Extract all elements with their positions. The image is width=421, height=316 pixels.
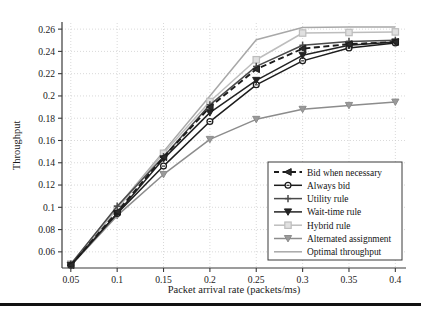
legend-label: Always bid: [307, 181, 350, 191]
y-tick-label: 0.24: [38, 46, 55, 57]
y-tick-label: 0.16: [38, 135, 55, 146]
y-tick-label: 0.26: [38, 24, 55, 35]
marker-square: [299, 30, 305, 36]
marker-square: [392, 29, 398, 35]
y-axis-title: Throughput: [11, 121, 22, 171]
legend-label: Wait-time rule: [307, 207, 361, 217]
y-tick-label: 0.22: [38, 68, 55, 79]
legend-label: Alternated assignment: [307, 234, 391, 244]
legend-label: Bid when necessary: [307, 168, 382, 178]
x-tick-label: 0.05: [62, 274, 79, 285]
x-tick-label: 0.35: [341, 274, 358, 285]
y-tick-label: 0.1: [43, 202, 55, 213]
y-tick-label: 0.14: [38, 157, 55, 168]
y-tick-label: 0.08: [38, 224, 55, 235]
y-tick-label: 0.12: [38, 179, 55, 190]
throughput-line-chart: 0.060.080.10.120.140.160.180.20.220.240.…: [0, 0, 421, 316]
legend-label: Hybrid rule: [307, 221, 350, 231]
marker-square: [346, 29, 352, 35]
y-tick-label: 0.2: [43, 90, 55, 101]
y-tick-label: 0.06: [38, 246, 55, 257]
legend-label: Utility rule: [307, 194, 348, 204]
footer-rule: [0, 303, 421, 306]
x-tick-label: 0.4: [389, 274, 401, 285]
legend-label: Optimal throughput: [307, 247, 382, 257]
marker-square: [253, 57, 259, 63]
legend: Bid when necessaryAlways bidUtility rule…: [268, 162, 402, 260]
x-axis-title: Packet arrival rate (packets/ms): [168, 284, 301, 296]
marker-square: [285, 222, 291, 228]
x-tick-label: 0.1: [111, 274, 123, 285]
y-tick-label: 0.18: [38, 113, 55, 124]
chart-figure: 0.060.080.10.120.140.160.180.20.220.240.…: [0, 0, 421, 316]
